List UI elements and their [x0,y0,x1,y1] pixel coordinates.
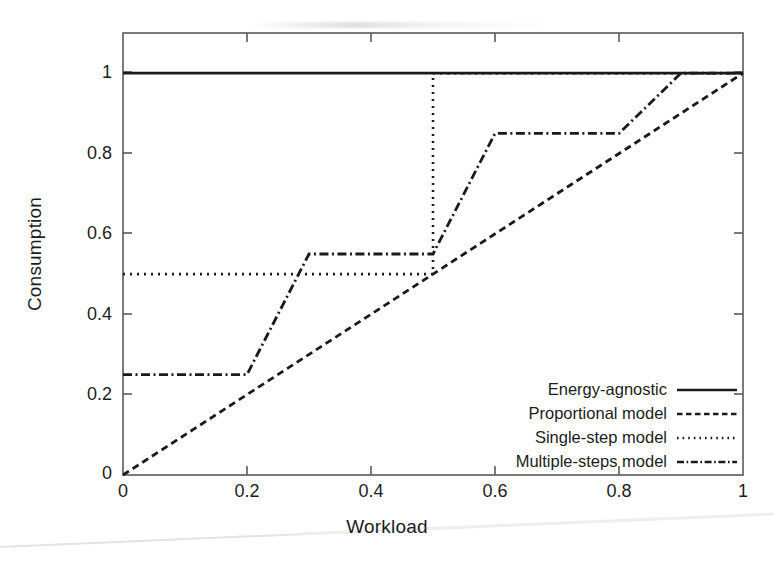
x-tick-label-5: 1 [713,481,773,502]
x-tick-label-2: 0.4 [341,481,401,502]
legend-label-proportional-model: Proportional model [529,404,677,423]
legend-sample-dashed [676,408,738,420]
chart-figure: 0 0.2 0.4 0.6 0.8 1 0 0.2 0.4 0.6 0.8 1 … [0,0,774,567]
legend-label-multiple-steps-model: Multiple-steps model [516,452,676,471]
x-tick-label-4: 0.8 [589,481,649,502]
y-tick-label-2: 0.4 [52,304,112,325]
y-tick-label-3: 0.6 [52,223,112,244]
legend-entry-proportional-model: Proportional model [476,403,738,425]
legend-entry-energy-agnostic: Energy-agnostic [476,379,738,401]
x-tick-label-3: 0.6 [465,481,525,502]
legend-sample-dash-dot [676,456,738,468]
y-tick-label-5: 1 [52,62,112,83]
x-axis-title: Workload [0,516,774,538]
y-axis-title: Consumption [24,33,46,475]
y-tick-label-0: 0 [52,463,112,484]
series-line-multiple-steps-model [123,73,743,374]
x-tick-label-0: 0 [93,481,153,502]
legend-label-energy-agnostic: Energy-agnostic [548,380,676,399]
legend-sample-dotted [676,432,738,444]
chart-legend: Energy-agnostic Proportional model Singl… [476,378,738,473]
legend-label-single-step-model: Single-step model [535,428,676,447]
y-tick-label-1: 0.2 [52,384,112,405]
legend-entry-multiple-steps-model: Multiple-steps model [476,451,738,473]
x-tick-label-1: 0.2 [217,481,277,502]
y-tick-label-4: 0.8 [52,143,112,164]
legend-sample-solid [676,384,738,396]
legend-entry-single-step-model: Single-step model [476,427,738,449]
